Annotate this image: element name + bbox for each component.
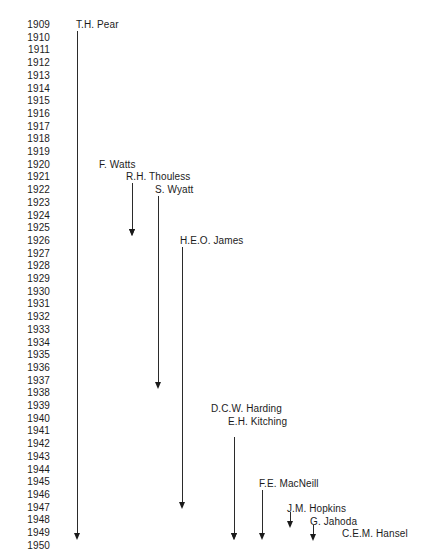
year-label-1920: 1920 — [0, 160, 50, 170]
year-label-1914: 1914 — [0, 84, 50, 94]
span-line-macneill — [262, 490, 263, 533]
arrow-down-icon-wyatt — [155, 382, 161, 389]
researcher-label-macneill: F.E. MacNeill — [259, 479, 319, 489]
year-label-1926: 1926 — [0, 236, 50, 246]
year-label-1918: 1918 — [0, 134, 50, 144]
year-label-1915: 1915 — [0, 96, 50, 106]
year-label-1911: 1911 — [0, 45, 50, 55]
arrow-down-icon-jahoda — [310, 534, 316, 541]
researcher-label-james: H.E.O. James — [180, 236, 243, 246]
year-label-1930: 1930 — [0, 287, 50, 297]
researcher-label-jahoda: G. Jahoda — [310, 517, 357, 527]
year-label-1924: 1924 — [0, 211, 50, 221]
arrow-down-icon-hopkins — [287, 521, 293, 528]
year-label-1946: 1946 — [0, 490, 50, 500]
year-label-1913: 1913 — [0, 71, 50, 81]
year-label-1940: 1940 — [0, 414, 50, 424]
year-label-1932: 1932 — [0, 312, 50, 322]
span-line-james — [182, 247, 183, 502]
year-label-1916: 1916 — [0, 109, 50, 119]
researcher-label-kitching: E.H. Kitching — [228, 417, 287, 427]
arrow-down-icon-pear — [74, 533, 80, 540]
researcher-label-thouless: R.H. Thouless — [126, 172, 190, 182]
year-label-1937: 1937 — [0, 376, 50, 386]
year-label-1927: 1927 — [0, 249, 50, 259]
year-label-1948: 1948 — [0, 515, 50, 525]
span-line-kitching — [234, 437, 235, 533]
year-label-1910: 1910 — [0, 33, 50, 43]
researcher-label-hansel: C.E.M. Hansel — [342, 529, 408, 539]
year-label-1931: 1931 — [0, 299, 50, 309]
year-label-1934: 1934 — [0, 338, 50, 348]
year-label-1939: 1939 — [0, 401, 50, 411]
year-label-1925: 1925 — [0, 223, 50, 233]
researcher-label-harding: D.C.W. Harding — [211, 404, 282, 414]
year-label-1941: 1941 — [0, 426, 50, 436]
arrow-down-icon-thouless — [129, 229, 135, 236]
year-label-1945: 1945 — [0, 477, 50, 487]
span-line-wyatt — [158, 196, 159, 382]
year-label-1935: 1935 — [0, 350, 50, 360]
researcher-label-watts: F. Watts — [99, 160, 136, 170]
year-label-1909: 1909 — [0, 20, 50, 30]
year-label-1912: 1912 — [0, 58, 50, 68]
year-label-1929: 1929 — [0, 274, 50, 284]
span-line-pear — [77, 31, 78, 533]
researcher-label-pear: T.H. Pear — [76, 20, 119, 30]
year-label-1944: 1944 — [0, 465, 50, 475]
year-label-1950: 1950 — [0, 541, 50, 551]
span-line-thouless — [132, 183, 133, 229]
year-label-1922: 1922 — [0, 185, 50, 195]
year-label-1917: 1917 — [0, 122, 50, 132]
arrow-down-icon-james — [179, 502, 185, 509]
arrow-down-icon-kitching — [231, 533, 237, 540]
year-label-1949: 1949 — [0, 528, 50, 538]
year-label-1943: 1943 — [0, 452, 50, 462]
arrow-down-icon-macneill — [259, 533, 265, 540]
year-label-1919: 1919 — [0, 147, 50, 157]
year-label-1938: 1938 — [0, 388, 50, 398]
researcher-label-wyatt: S. Wyatt — [155, 185, 194, 195]
researcher-label-hopkins: J.M. Hopkins — [287, 504, 346, 514]
year-label-1942: 1942 — [0, 439, 50, 449]
year-label-1947: 1947 — [0, 503, 50, 513]
year-label-1933: 1933 — [0, 325, 50, 335]
year-label-1936: 1936 — [0, 363, 50, 373]
year-label-1923: 1923 — [0, 198, 50, 208]
timeline-chart: 1909191019111912191319141915191619171918… — [0, 0, 425, 560]
year-label-1928: 1928 — [0, 261, 50, 271]
year-label-1921: 1921 — [0, 172, 50, 182]
